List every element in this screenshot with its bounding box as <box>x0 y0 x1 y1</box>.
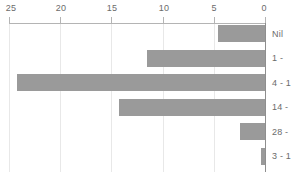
bar <box>17 74 265 91</box>
bar <box>240 123 265 140</box>
x-tick-label: 10 <box>159 3 169 13</box>
x-tick-label: 20 <box>56 3 66 13</box>
x-tick-label: 15 <box>107 3 117 13</box>
gridline <box>111 24 112 172</box>
x-tick-label: 0 <box>261 3 266 13</box>
category-label: 4 - 1 <box>272 78 291 88</box>
x-tick-mark <box>9 17 10 23</box>
x-tick-mark <box>111 17 112 23</box>
plot-area: 25 20 15 10 5 0 Nil 1 - 4 - 1 14 - 28 - … <box>0 0 294 178</box>
x-tick-mark <box>265 17 266 23</box>
bar-chart: 25 20 15 10 5 0 Nil 1 - 4 - 1 14 - 28 - … <box>0 0 294 178</box>
x-tick-label: 25 <box>6 3 16 13</box>
gridline <box>60 24 61 172</box>
category-label: 3 - 1 <box>272 151 291 161</box>
category-label: 14 - <box>272 102 288 112</box>
value-axis-line <box>9 23 265 24</box>
bar <box>261 148 265 165</box>
gridline <box>9 24 10 172</box>
gridline <box>214 24 215 172</box>
category-label: 28 - <box>272 127 288 137</box>
category-label: 1 - <box>272 53 283 63</box>
bar <box>147 50 265 67</box>
gridline <box>163 24 164 172</box>
x-tick-mark <box>60 17 61 23</box>
x-tick-label: 5 <box>211 3 216 13</box>
x-tick-mark <box>214 17 215 23</box>
bar <box>218 25 265 42</box>
x-tick-mark <box>163 17 164 23</box>
category-label: Nil <box>272 29 283 39</box>
category-axis-line <box>265 23 266 172</box>
bar <box>119 99 265 116</box>
